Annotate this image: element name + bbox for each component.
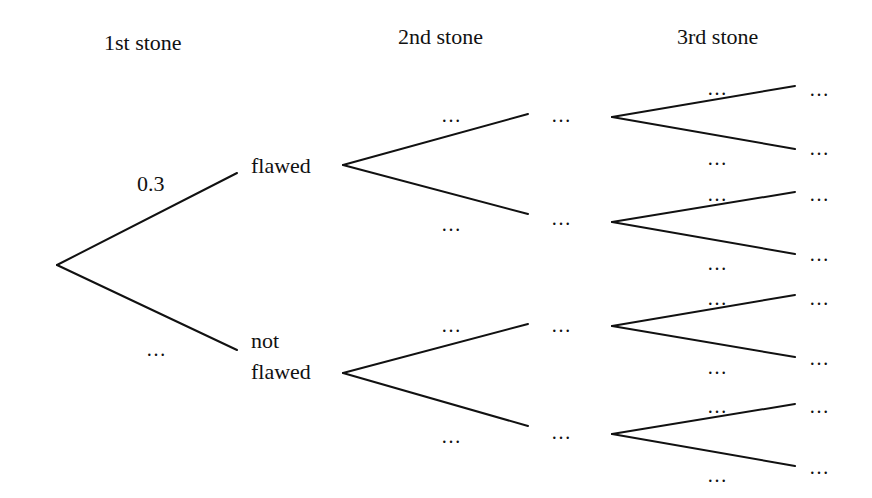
outcome-third-7: … [809, 393, 830, 419]
outcome-third-3: … [809, 181, 830, 207]
prob-third-4: … [707, 250, 728, 276]
outcome-flawed: flawed [251, 153, 311, 179]
prob-second-3: … [441, 312, 462, 338]
header-1st-stone: 1st stone [104, 30, 182, 56]
prob-third-2: … [707, 145, 728, 171]
outcome-third-8: … [809, 454, 830, 480]
outcome-not-flawed-line2: flawed [251, 359, 311, 385]
outcome-second-3: … [551, 312, 572, 338]
prob-third-1: … [707, 75, 728, 101]
prob-not-flawed-first: … [146, 336, 167, 362]
tree-branches [0, 0, 872, 498]
outcome-second-1: … [551, 102, 572, 128]
outcome-third-6: … [809, 345, 830, 371]
prob-third-8: … [707, 462, 728, 488]
outcome-second-4: … [551, 419, 572, 445]
prob-second-2: … [441, 211, 462, 237]
prob-third-6: … [707, 354, 728, 380]
header-2nd-stone: 2nd stone [398, 24, 483, 50]
prob-flawed-first: 0.3 [137, 171, 165, 197]
header-3rd-stone: 3rd stone [677, 24, 758, 50]
prob-third-7: … [707, 393, 728, 419]
outcome-second-2: … [551, 205, 572, 231]
outcome-third-2: … [809, 135, 830, 161]
prob-second-1: … [441, 102, 462, 128]
prob-third-3: … [707, 181, 728, 207]
prob-third-5: … [707, 285, 728, 311]
outcome-third-1: … [809, 76, 830, 102]
outcome-not-flawed-line1: not [251, 328, 279, 354]
outcome-third-4: … [809, 241, 830, 267]
prob-second-4: … [441, 423, 462, 449]
outcome-third-5: … [809, 285, 830, 311]
